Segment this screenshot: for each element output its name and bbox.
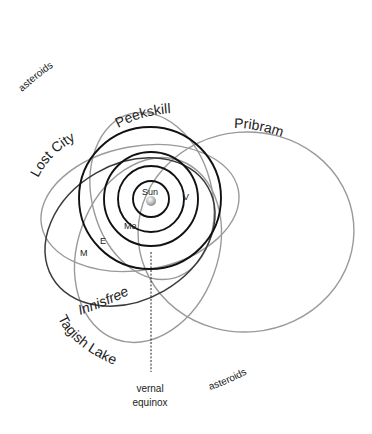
- mercury-label: Me: [124, 221, 137, 231]
- equinox-label: equinox: [132, 397, 167, 408]
- pribram-label: Pribram: [234, 115, 286, 140]
- peekskill-label: Peekskill: [112, 100, 171, 130]
- sun-icon: [146, 196, 156, 206]
- venus-label: V: [183, 192, 189, 202]
- asteroids-label-upper: asteroids: [16, 59, 55, 93]
- earth-label: E: [100, 236, 106, 246]
- asteroids-label-lower: asteroids: [207, 366, 248, 392]
- innisfree-label: Innisfree: [76, 283, 131, 318]
- orbit-pribram: [130, 123, 363, 341]
- sun-label: Sun: [142, 187, 158, 197]
- vernal-label: vernal: [136, 383, 163, 394]
- mars-label: M: [80, 248, 88, 258]
- meteorite-orbit-diagram: Sun Me V E M vernal equinox Peekskill Pr…: [0, 0, 372, 434]
- tagish-lake-label: Tagish Lake: [55, 312, 120, 368]
